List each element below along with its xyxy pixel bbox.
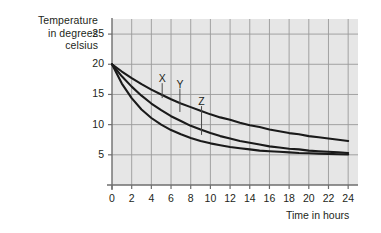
y-tick-5: 5 [82,148,104,160]
y-tick-20: 20 [82,57,104,69]
curve-label-z: Z [196,95,208,107]
y-tick-10: 10 [82,118,104,130]
x-tick-16: 16 [261,192,277,204]
x-tick-12: 12 [222,192,238,204]
x-tick-2: 2 [124,192,140,204]
curve-label-x: X [156,72,168,84]
x-tick-6: 6 [163,192,179,204]
x-tick-20: 20 [301,192,317,204]
x-tick-8: 8 [183,192,199,204]
x-tick-10: 10 [202,192,218,204]
x-tick-22: 22 [320,192,336,204]
curve-label-y: Y [174,78,186,90]
x-tick-14: 14 [242,192,258,204]
y-tick-15: 15 [82,87,104,99]
x-tick-4: 4 [143,192,159,204]
x-tick-18: 18 [281,192,297,204]
x-axis-label: Time in hours [286,209,349,221]
chart-figure: Temperature in degrees celsius 510152025… [0,0,381,233]
y-tick-25: 25 [82,27,104,39]
x-tick-0: 0 [104,192,120,204]
x-tick-24: 24 [340,192,356,204]
